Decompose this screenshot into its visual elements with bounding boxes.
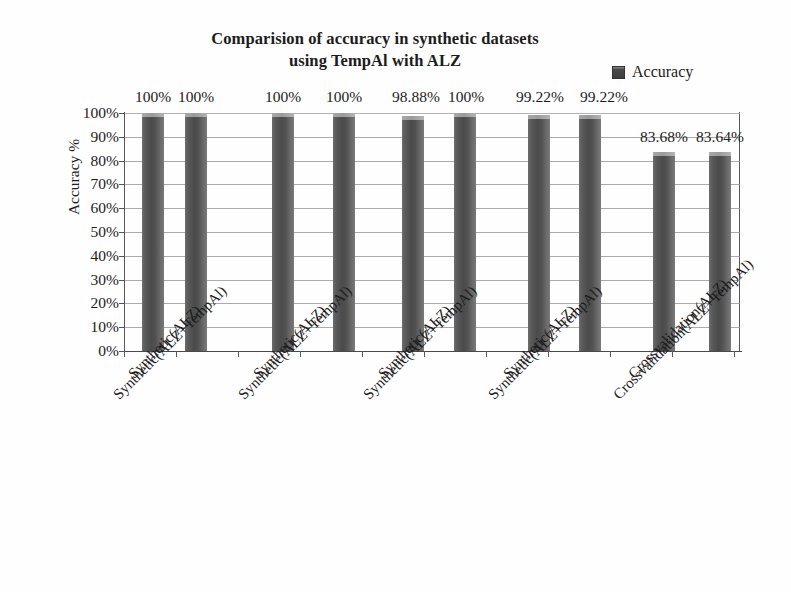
value-label-5: 100% [448,88,484,106]
x-tick-mark-7 [548,351,549,357]
value-label-1: 100% [178,88,214,106]
bar-cap [454,113,476,117]
y-tick-mark-60 [119,208,125,209]
value-label-8: 83.68% [640,128,688,146]
bar-5[interactable] [454,113,476,351]
y-tick-mark-70 [119,184,125,185]
y-tick-label-30: 30% [91,271,119,289]
bar-1[interactable] [185,113,207,351]
bar-cap [333,113,355,117]
value-label-2: 100% [265,88,301,106]
y-tick-mark-20 [119,303,125,304]
x-tick-mark-8 [610,351,611,357]
bar-cap [402,116,424,120]
value-label-0: 100% [135,88,171,106]
bar-cap [579,115,601,119]
x-tick-mark-3 [300,351,301,357]
gridline-40 [124,256,740,257]
chart-title-line-2: using TempAl with ALZ [140,50,610,72]
bar-cap [185,113,207,117]
chart-title-line-1: Comparision of accuracy in synthetic dat… [140,28,610,50]
gridline-10 [124,327,740,328]
value-label-3: 100% [326,88,362,106]
y-tick-label-80: 80% [91,152,119,170]
gridline-50 [124,232,740,233]
gridline-30 [124,280,740,281]
bar-0[interactable] [142,113,164,351]
y-tick-mark-40 [119,256,125,257]
bar-cap [653,152,675,156]
x-tick-mark-10 [734,351,735,357]
y-tick-mark-80 [119,161,125,162]
y-tick-label-100: 100% [83,104,119,122]
bar-8[interactable] [653,152,675,351]
x-tick-mark-1 [176,351,177,357]
y-tick-label-60: 60% [91,199,119,217]
gridline-100 [124,113,740,114]
bar-cap [142,113,164,117]
y-tick-mark-100 [119,113,125,114]
y-tick-label-10: 10% [91,318,119,336]
y-tick-label-50: 50% [91,223,119,241]
y-tick-label-0: 0% [98,342,119,360]
x-axis-line [122,351,742,352]
y-tick-label-40: 40% [91,247,119,265]
bar-6[interactable] [528,115,550,351]
x-tick-mark-5 [424,351,425,357]
y-tick-mark-30 [119,280,125,281]
x-tick-mark-9 [672,351,673,357]
bar-cap [709,152,731,156]
x-tick-mark-4 [362,351,363,357]
y-axis-tick-labels: 100% 90% 80% 70% 60% 50% 40% 30% 20% 10%… [57,113,119,351]
chart-legend: Accuracy [612,63,693,81]
y-tick-label-20: 20% [91,294,119,312]
y-tick-mark-90 [119,137,125,138]
y-tick-mark-10 [119,327,125,328]
bar-2[interactable] [272,113,294,351]
gridline-80 [124,161,740,162]
value-label-4: 98.88% [392,88,440,106]
bar-cap [272,113,294,117]
x-tick-mark-2 [238,351,239,357]
x-tick-mark-6 [486,351,487,357]
bar-9[interactable] [709,152,731,351]
legend-label-accuracy: Accuracy [632,63,693,81]
bar-4[interactable] [402,116,424,351]
y-tick-label-90: 90% [91,128,119,146]
bar-7[interactable] [579,115,601,351]
legend-swatch-accuracy [612,66,625,79]
y-tick-mark-50 [119,232,125,233]
gridline-60 [124,208,740,209]
chart-title: Comparision of accuracy in synthetic dat… [140,28,610,73]
bar-cap [528,115,550,119]
plot-area [124,113,740,351]
gridline-70 [124,184,740,185]
value-label-6: 99.22% [516,88,564,106]
y-tick-label-70: 70% [91,175,119,193]
gridline-20 [124,303,740,304]
bar-3[interactable] [333,113,355,351]
value-label-9: 83.64% [696,128,744,146]
x-tick-mark-0 [124,351,125,357]
value-label-7: 99.22% [580,88,628,106]
